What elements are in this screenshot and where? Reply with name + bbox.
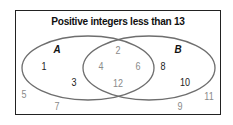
element-intersection: 4	[98, 62, 103, 72]
element-outside: 11	[204, 92, 213, 102]
element-outside: 5	[21, 90, 26, 100]
element-intersection: 12	[113, 79, 123, 89]
element-intersection: 6	[135, 62, 140, 72]
set-a-label: A	[53, 44, 60, 54]
element-outside: 9	[177, 102, 182, 112]
element-b-only: 8	[160, 62, 165, 72]
element-outside: 7	[54, 102, 59, 112]
set-b-label: B	[174, 44, 181, 54]
element-intersection: 2	[115, 46, 120, 56]
venn-diagram	[0, 0, 233, 125]
element-a-only: 3	[71, 78, 76, 88]
element-b-only: 10	[180, 78, 190, 88]
element-a-only: 1	[41, 62, 46, 72]
